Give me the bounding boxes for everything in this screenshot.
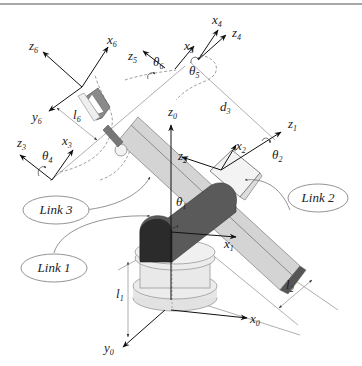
robot-arm-diagram: Link 3 Link 1 Link 2 x0 y0 z0 x1 z1 x2 z… <box>0 0 362 366</box>
label-d3: d3 <box>220 99 231 116</box>
label-z1: z1 <box>287 116 297 133</box>
label-theta6: θ6 <box>153 54 163 71</box>
label-l1: l1 <box>116 286 124 303</box>
link-2-label: Link 2 <box>288 184 348 212</box>
label-y6: y6 <box>30 109 42 126</box>
svg-text:Link 2: Link 2 <box>301 190 335 205</box>
label-x4: x4 <box>211 12 222 29</box>
label-x0: x0 <box>249 311 260 328</box>
link-1-label: Link 1 <box>21 254 87 282</box>
label-theta5: θ5 <box>189 63 199 80</box>
label-z2: z2 <box>177 148 187 165</box>
label-x2: x2 <box>235 138 246 155</box>
label-x5: x5 <box>183 38 194 55</box>
label-theta2: θ2 <box>272 147 282 164</box>
label-x6: x6 <box>106 32 117 49</box>
label-y0: y0 <box>102 340 114 357</box>
label-l6: l6 <box>73 107 81 124</box>
label-z4: z4 <box>231 25 241 42</box>
svg-text:Link 3: Link 3 <box>39 202 73 217</box>
svg-text:Link 1: Link 1 <box>37 260 71 275</box>
label-z0: z0 <box>167 104 177 121</box>
label-z3: z3 <box>16 135 26 152</box>
label-theta4: θ4 <box>42 148 52 165</box>
label-z5: z5 <box>127 48 137 65</box>
label-z6: z6 <box>28 38 38 55</box>
label-x3: x3 <box>61 133 72 150</box>
link-3-label: Link 3 <box>23 196 89 224</box>
